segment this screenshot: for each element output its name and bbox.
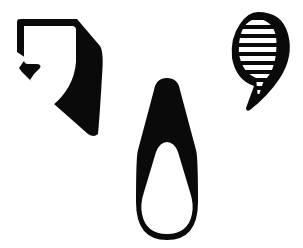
striped-comma-icon [228, 8, 294, 116]
teardrop-icon [134, 72, 200, 244]
striped-comma-figure [228, 8, 294, 116]
shield-comma-figure [14, 16, 106, 138]
teardrop-figure [134, 72, 200, 244]
shield-comma-icon [14, 16, 106, 138]
